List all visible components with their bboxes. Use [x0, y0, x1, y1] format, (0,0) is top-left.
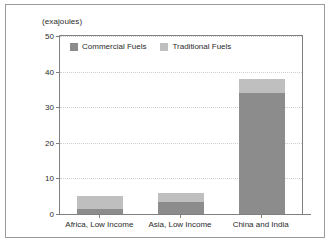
x-axis-category-label: Africa, Low Income — [65, 220, 133, 229]
x-axis-category-label: China and India — [233, 220, 289, 229]
x-axis-category-label: Asia, Low Income — [148, 220, 211, 229]
bar-segment-commercial-fuels — [158, 202, 204, 214]
y-axis-tick-label: 10 — [45, 174, 54, 183]
x-axis-tick-mark — [180, 214, 181, 218]
bar-stack — [77, 196, 123, 214]
legend-swatch-commercial-fuels — [70, 43, 78, 51]
bar-segment-traditional-fuels — [77, 196, 123, 208]
bar-segment-traditional-fuels — [239, 79, 285, 93]
y-axis-tick-mark — [56, 72, 60, 73]
legend-item-traditional-fuels: Traditional Fuels — [160, 42, 231, 51]
y-axis-tick-label: 40 — [45, 67, 54, 76]
x-axis-baseline — [59, 214, 311, 215]
legend-item-commercial-fuels: Commercial Fuels — [70, 42, 146, 51]
plot-area: 01020304050 — [60, 36, 302, 214]
bar-stack — [158, 193, 204, 214]
chart-page: (exajoules) 01020304050 Commercial Fuels… — [0, 0, 330, 243]
legend-label-traditional-fuels: Traditional Fuels — [172, 42, 231, 51]
bar-segment-commercial-fuels — [239, 93, 285, 214]
legend-label-commercial-fuels: Commercial Fuels — [82, 42, 146, 51]
legend-swatch-traditional-fuels — [160, 43, 168, 51]
y-axis-tick-mark — [56, 107, 60, 108]
y-axis-tick-label: 0 — [50, 210, 54, 219]
bar-stack — [239, 79, 285, 214]
y-axis-tick-mark — [56, 178, 60, 179]
y-axis-tick-mark — [56, 143, 60, 144]
axis-unit-label: (exajoules) — [42, 17, 82, 26]
y-axis-tick-mark — [56, 36, 60, 37]
bar-segment-traditional-fuels — [158, 193, 204, 203]
chart-legend: Commercial Fuels Traditional Fuels — [70, 42, 231, 51]
y-axis-tick-label: 30 — [45, 103, 54, 112]
gridline — [60, 72, 302, 73]
y-axis-tick-label: 20 — [45, 138, 54, 147]
page-border: (exajoules) 01020304050 Commercial Fuels… — [5, 4, 325, 238]
y-axis-tick-label: 50 — [45, 32, 54, 41]
x-axis-tick-mark — [99, 214, 100, 218]
gridline — [60, 36, 302, 37]
plot-frame: 01020304050 Commercial Fuels Traditional… — [59, 35, 303, 214]
x-axis-tick-mark — [261, 214, 262, 218]
